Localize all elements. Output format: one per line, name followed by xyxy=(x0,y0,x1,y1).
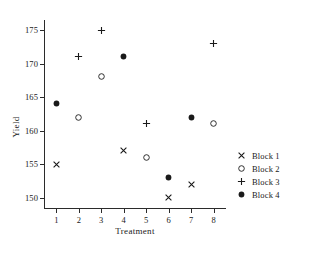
y-tick-label: 175 xyxy=(25,26,38,35)
legend-marker-open-circle-icon xyxy=(237,164,248,175)
data-point xyxy=(142,119,151,128)
x-tick-label: 4 xyxy=(122,216,126,225)
y-tick-mark xyxy=(40,64,44,65)
x-tick-mark xyxy=(101,209,102,213)
x-tick-label: 6 xyxy=(167,216,171,225)
x-axis-title: Treatment xyxy=(44,226,226,236)
y-tick-label: 160 xyxy=(25,126,38,135)
y-tick-label: 155 xyxy=(25,160,38,169)
x-tick-mark xyxy=(169,209,170,213)
y-tick-mark xyxy=(40,198,44,199)
plot-area: 150155160165170175 12345678 xyxy=(44,20,226,209)
data-point xyxy=(74,113,83,122)
x-tick-label: 8 xyxy=(211,216,215,225)
data-point xyxy=(164,193,173,202)
legend-marker-cross-x-icon xyxy=(237,151,248,162)
legend-item: Block 2 xyxy=(237,163,307,175)
legend-marker-plus-icon xyxy=(237,177,248,188)
data-point xyxy=(142,153,151,162)
y-tick-mark xyxy=(40,97,44,98)
x-tick-label: 1 xyxy=(54,216,58,225)
data-point xyxy=(119,52,128,61)
data-point xyxy=(164,173,173,182)
x-axis-line xyxy=(44,208,226,209)
x-tick-mark xyxy=(191,209,192,213)
y-tick-mark xyxy=(40,164,44,165)
data-point xyxy=(187,113,196,122)
legend-item-label: Block 3 xyxy=(252,177,280,187)
legend-item-label: Block 4 xyxy=(252,190,280,200)
x-tick-mark xyxy=(146,209,147,213)
x-tick-mark xyxy=(79,209,80,213)
x-tick-label: 5 xyxy=(144,216,148,225)
legend-item: Block 3 xyxy=(237,176,307,188)
legend-marker-filled-circle-icon xyxy=(237,190,248,201)
y-tick-mark xyxy=(40,30,44,31)
legend: Block 1Block 2Block 3Block 4 xyxy=(237,150,307,202)
y-axis-title: Yield xyxy=(11,116,21,137)
y-axis-line xyxy=(44,20,45,209)
data-point xyxy=(97,72,106,81)
data-point xyxy=(52,160,61,169)
data-point xyxy=(97,26,106,35)
x-tick-mark xyxy=(56,209,57,213)
x-tick-mark xyxy=(214,209,215,213)
data-point xyxy=(209,39,218,48)
data-point xyxy=(209,119,218,128)
x-tick-label: 3 xyxy=(99,216,103,225)
y-tick-label: 170 xyxy=(25,59,38,68)
legend-item-label: Block 1 xyxy=(252,151,280,161)
x-tick-label: 2 xyxy=(77,216,81,225)
legend-item: Block 4 xyxy=(237,189,307,201)
y-tick-label: 165 xyxy=(25,93,38,102)
legend-item-label: Block 2 xyxy=(252,164,280,174)
y-tick-mark xyxy=(40,131,44,132)
data-point xyxy=(187,180,196,189)
data-point xyxy=(74,52,83,61)
x-tick-label: 7 xyxy=(189,216,193,225)
x-tick-mark xyxy=(124,209,125,213)
y-tick-label: 150 xyxy=(25,193,38,202)
legend-item: Block 1 xyxy=(237,150,307,162)
data-point xyxy=(119,146,128,155)
data-point xyxy=(52,99,61,108)
scatter-plot-figure: Yield 150155160165170175 12345678 Treatm… xyxy=(0,0,309,253)
